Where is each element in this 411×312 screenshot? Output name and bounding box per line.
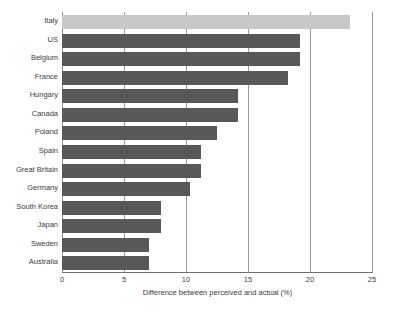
y-axis-label-japan: Japan	[0, 216, 58, 235]
x-tick-label-15: 15	[236, 275, 260, 284]
bar-germany	[62, 182, 190, 196]
bar-chart-figure: ItalyUSBelgiumFranceHungaryCanadaPolandS…	[0, 0, 411, 312]
y-axis-label-poland: Poland	[0, 123, 58, 142]
y-axis-label-sweden: Sweden	[0, 235, 58, 254]
x-tick-label-25: 25	[360, 275, 384, 284]
bar-poland	[62, 126, 217, 140]
x-tick-label-0: 0	[50, 275, 74, 284]
y-axis-label-us: US	[0, 31, 58, 50]
y-axis-label-australia: Australia	[0, 253, 58, 272]
bar-italy	[62, 15, 350, 29]
y-axis-category-labels: ItalyUSBelgiumFranceHungaryCanadaPolandS…	[0, 12, 58, 272]
bar-australia	[62, 256, 149, 270]
y-axis-label-great-britain: Great Britain	[0, 161, 58, 180]
y-axis-label-south-korea: South Korea	[0, 198, 58, 217]
caption-remnant	[0, 303, 411, 312]
bar-great-britain	[62, 164, 201, 178]
bar-series	[62, 12, 372, 272]
x-tick-label-10: 10	[174, 275, 198, 284]
bar-spain	[62, 145, 201, 159]
bar-france	[62, 71, 288, 85]
bar-us	[62, 34, 300, 48]
bar-japan	[62, 219, 161, 233]
bar-sweden	[62, 238, 149, 252]
y-axis-label-belgium: Belgium	[0, 49, 58, 68]
y-axis-label-france: France	[0, 68, 58, 87]
x-axis-line	[62, 272, 373, 273]
y-axis-label-hungary: Hungary	[0, 86, 58, 105]
bar-belgium	[62, 52, 300, 66]
bar-south-korea	[62, 201, 161, 215]
x-axis-title: Difference between perceived and actual …	[62, 288, 373, 297]
gridline-25	[372, 12, 373, 272]
y-axis-label-canada: Canada	[0, 105, 58, 124]
x-tick-label-5: 5	[112, 275, 136, 284]
y-axis-label-italy: Italy	[0, 12, 58, 31]
bar-canada	[62, 108, 238, 122]
x-tick-label-20: 20	[298, 275, 322, 284]
y-axis-label-spain: Spain	[0, 142, 58, 161]
bar-hungary	[62, 89, 238, 103]
plot-area	[62, 12, 372, 272]
y-axis-label-germany: Germany	[0, 179, 58, 198]
